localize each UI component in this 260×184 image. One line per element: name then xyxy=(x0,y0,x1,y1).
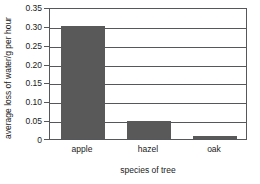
y-tick-label: 0.35 xyxy=(14,4,42,13)
x-tick-label: oak xyxy=(181,143,247,155)
x-tick-label: hazel xyxy=(115,143,181,155)
bar-series xyxy=(50,9,246,139)
y-axis-title: average loss of water/g per hour xyxy=(1,3,15,153)
y-axis-tick-labels: 00.050.100.150.200.250.300.35 xyxy=(14,8,42,140)
y-tick-label: 0.10 xyxy=(14,98,42,107)
bar xyxy=(61,26,105,139)
x-tick-label: apple xyxy=(49,143,115,155)
plot-area xyxy=(49,8,247,140)
x-axis-tick-labels: applehazeloak xyxy=(49,143,247,155)
y-tick-label: 0.25 xyxy=(14,41,42,50)
y-tick-label: 0.20 xyxy=(14,60,42,69)
y-tick-label: 0.15 xyxy=(14,79,42,88)
bar-chart-figure: average loss of water/g per hour 00.050.… xyxy=(0,0,260,184)
bar xyxy=(193,136,237,139)
bar xyxy=(127,121,171,139)
y-tick-label: 0 xyxy=(14,136,42,145)
y-tick-label: 0.05 xyxy=(14,117,42,126)
y-tick-label: 0.30 xyxy=(14,22,42,31)
x-axis-title: species of tree xyxy=(49,164,247,176)
